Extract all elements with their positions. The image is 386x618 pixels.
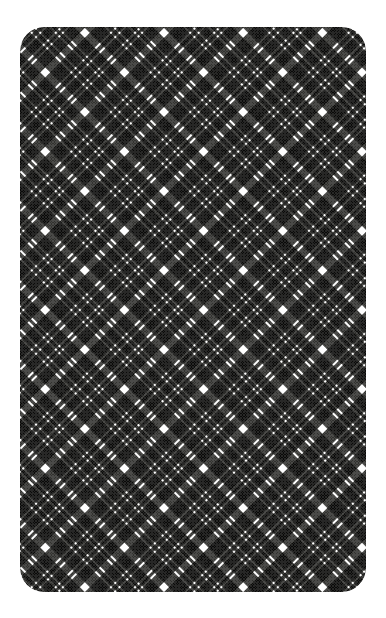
plaid-weft-stripes <box>20 27 366 592</box>
plaid-pattern-card <box>20 27 366 592</box>
image-canvas <box>0 0 386 618</box>
plaid-weft-layer <box>20 27 366 592</box>
